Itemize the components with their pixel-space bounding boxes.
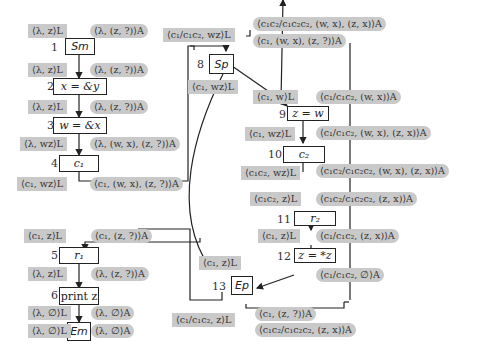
alias-label: ⟨c₁/c₁c₂, (w, x)⟩A [316,90,401,104]
node-z-assign-w[interactable]: z = w [287,106,329,121]
liveness-label: ⟨c₁, wz⟩L [17,177,67,191]
liveness-label: ⟨c₁c₂, z⟩L [250,192,301,206]
alias-label: ⟨c₁, (w, x), (z, ?)⟩A [253,34,346,48]
node-end-proc[interactable]: Ep [231,276,253,295]
liveness-label: ⟨λ, z⟩L [28,100,67,114]
node-call-c1[interactable]: c₁ [59,155,99,172]
liveness-label: ⟨c₁, z⟩L [24,229,66,243]
liveness-label: ⟨c₁, w⟩L [253,90,298,104]
node-number: 10 [262,148,282,161]
liveness-label: ⟨λ, ∅⟩L [28,324,71,338]
alias-label: ⟨c₁c₂/c₁c₂c₂, (w, x), (z, x)⟩A [253,17,386,31]
alias-label: ⟨c₁/c₁c₂, (z, x)⟩A [316,229,399,243]
node-return-r1[interactable]: r₁ [59,247,99,264]
node-number: 4 [38,157,58,170]
alias-label: ⟨λ, (z, ?)⟩A [90,63,148,77]
liveness-label: ⟨c₁, wz⟩L [245,127,295,141]
alias-label: ⟨c₁/c₁c₂, (w, x), (z, x)⟩A [316,126,431,140]
node-number: 3 [34,119,54,132]
alias-label: ⟨λ, ∅⟩A [91,306,134,320]
liveness-label: ⟨c₁, z⟩L [199,256,241,270]
node-number: 5 [38,249,58,262]
node-number: 6 [38,289,58,302]
alias-label: ⟨c₁c₂/c₁c₂c₂, (z, x)⟩A [255,323,356,337]
liveness-label: ⟨c₁, z⟩L [258,229,300,243]
alias-label: ⟨c₁, (z, ?)⟩A [255,307,316,321]
alias-label: ⟨c₁c₂/c₁c₂c₂, (w, x), (z, x)⟩A [316,164,449,178]
alias-label: ⟨λ, ∅⟩A [91,324,134,338]
node-number: 1 [38,41,58,54]
node-x-assign[interactable]: x = &y [53,78,107,95]
alias-label: ⟨λ, (w, x), (z, ?)⟩A [90,137,180,151]
liveness-label: ⟨λ, ∅⟩L [28,306,71,320]
node-start-main[interactable]: Sm [65,38,95,55]
liveness-label: ⟨c₁, wz⟩L [188,80,238,94]
node-number: 9 [266,108,286,121]
node-number: 11 [271,213,291,226]
alias-label: ⟨c₁c₂/c₁c₂c₂, (z, x)⟩A [316,192,417,206]
alias-label: ⟨λ, (z, ?)⟩A [91,267,149,281]
node-return-r2[interactable]: r₂ [294,211,336,226]
node-call-c2[interactable]: c₂ [283,146,325,163]
liveness-label: ⟨c₁/c₁c₂, z⟩L [172,313,235,327]
alias-label: ⟨c₁/c₁c₂, ∅⟩A [316,268,384,282]
liveness-label: ⟨λ, z⟩L [28,63,67,77]
node-number: 8 [184,58,204,71]
liveness-label: ⟨c₁c₂, wz⟩L [241,166,300,180]
liveness-label: ⟨λ, wz⟩L [20,137,67,151]
liveness-label: ⟨λ, z⟩L [28,267,67,281]
alias-label: ⟨λ, (z, ?)⟩A [90,24,148,38]
liveness-label: ⟨λ, z⟩L [28,24,67,38]
node-number: 13 [206,280,226,293]
alias-label: ⟨λ, (z, ?)⟩A [90,100,148,114]
node-print-z[interactable]: print z [59,287,99,305]
node-w-assign[interactable]: w = &x [53,117,107,134]
alias-label: ⟨c₁, (w, x), (z, ?)⟩A [90,177,183,191]
node-start-proc[interactable]: Sp [209,54,234,74]
node-z-deref[interactable]: z = *z [294,248,336,263]
node-number: 12 [271,250,291,263]
liveness-label: ⟨c₁/c₁c₂, wz⟩L [163,28,235,42]
node-number: 2 [34,80,54,93]
alias-label: ⟨c₁, (z, ?)⟩A [91,229,152,243]
